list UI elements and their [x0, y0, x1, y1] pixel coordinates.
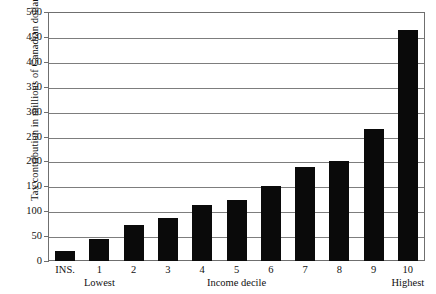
bar: [124, 225, 144, 261]
bar: [261, 186, 281, 261]
y-tick-label: 400: [0, 57, 42, 68]
y-tick-label: 350: [0, 81, 42, 92]
bar: [192, 205, 212, 261]
x-axis-annotation: Income decile: [187, 276, 287, 290]
bar-chart: Tax contribution in millions of Canadian…: [0, 0, 436, 294]
bar: [364, 129, 384, 261]
bar: [398, 30, 418, 261]
y-tick-label: 500: [0, 7, 42, 18]
bar: [55, 251, 75, 261]
y-tick-mark: [44, 261, 49, 262]
bar: [89, 239, 109, 261]
x-axis-annotation: Highest: [358, 276, 436, 290]
y-tick-label: 50: [0, 231, 42, 242]
y-tick-label: 150: [0, 181, 42, 192]
y-tick-label: 100: [0, 206, 42, 217]
y-tick-label: 250: [0, 131, 42, 142]
x-tick-label: 10: [378, 263, 436, 277]
bar: [158, 218, 178, 261]
x-axis-annotations: LowestIncome decileHighest: [0, 276, 436, 294]
y-tick-label: 200: [0, 156, 42, 167]
bar: [329, 161, 349, 261]
bar: [227, 200, 247, 261]
y-tick-label: 450: [0, 32, 42, 43]
bars-layer: [48, 12, 425, 261]
x-axis-annotation: Lowest: [49, 276, 149, 290]
y-tick-label: 300: [0, 106, 42, 117]
bar: [295, 167, 315, 261]
